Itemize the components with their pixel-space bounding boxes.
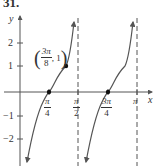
x-tick-pi-over-2: π 2 (73, 97, 80, 118)
zero-point-3pi-over-4 (106, 90, 110, 94)
x-axis-label: x (148, 95, 152, 105)
zero-point-pi-over-4 (47, 90, 51, 94)
y-axis-label: y (9, 14, 13, 24)
y-tick-1: 1 (8, 61, 13, 71)
tangent-graph (0, 0, 161, 166)
x-tick-pi: π (133, 97, 138, 106)
x-tick-3pi-over-4: 3π 4 (101, 97, 112, 118)
point-annotation: ( 3π 8 , 1 ) (34, 47, 67, 68)
y-tick-neg1: −1 (3, 111, 14, 121)
y-tick-2: 2 (8, 38, 13, 48)
x-tick-pi-over-4: π 4 (44, 97, 51, 118)
y-tick-neg2: −2 (3, 134, 14, 144)
